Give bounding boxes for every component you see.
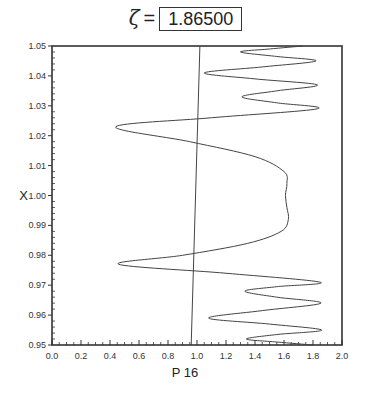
series-line-p16: [116, 46, 322, 345]
axes: [48, 46, 342, 345]
x-tick-label: 2.0: [336, 351, 349, 361]
y-tick-label: 0.96: [28, 310, 46, 320]
x-tick-label: 0.0: [46, 351, 59, 361]
x-tick-label: 0.8: [162, 351, 175, 361]
y-tick-label: 0.98: [28, 250, 46, 260]
x-tick-label: 1.2: [220, 351, 233, 361]
chart: 0.00.20.40.60.81.01.21.41.61.82.00.950.9…: [0, 0, 371, 397]
x-tick-label: 0.6: [133, 351, 146, 361]
y-tick-label: 1.01: [28, 161, 46, 171]
x-tick-label: 1.4: [249, 351, 262, 361]
series-line-reference: [191, 46, 200, 345]
x-axis-title: P 16: [172, 365, 199, 380]
x-tick-label: 1.8: [307, 351, 320, 361]
x-tick-label: 0.2: [75, 351, 88, 361]
y-tick-label: 1.00: [28, 191, 46, 201]
y-tick-label: 1.03: [28, 101, 46, 111]
x-tick-label: 1.0: [191, 351, 204, 361]
plot-frame: [52, 46, 342, 345]
series-layer: [116, 46, 322, 345]
x-tick-label: 1.6: [278, 351, 291, 361]
y-tick-label: 0.97: [28, 280, 46, 290]
y-tick-label: 1.05: [28, 41, 46, 51]
y-tick-label: 1.02: [28, 131, 46, 141]
y-tick-label: 1.04: [28, 71, 46, 81]
y-tick-label: 0.95: [28, 340, 46, 350]
tick-labels: 0.00.20.40.60.81.01.21.41.61.82.00.950.9…: [19, 41, 348, 380]
x-tick-label: 0.4: [104, 351, 117, 361]
y-axis-title: X: [19, 188, 28, 203]
y-tick-label: 0.99: [28, 220, 46, 230]
